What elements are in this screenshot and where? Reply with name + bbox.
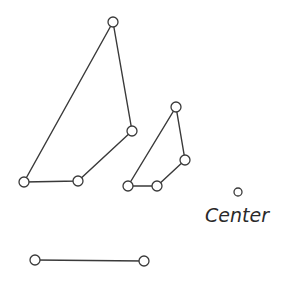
segment-edge xyxy=(35,260,144,261)
node xyxy=(152,181,162,191)
node xyxy=(171,102,181,112)
node xyxy=(139,256,149,266)
node xyxy=(180,155,190,165)
node xyxy=(123,181,133,191)
large-polygon-edges xyxy=(24,22,132,182)
center-marker: Center xyxy=(205,188,270,226)
node xyxy=(30,255,40,265)
diagram-canvas: Center xyxy=(0,0,298,290)
small-polygon-edges xyxy=(128,107,185,186)
node xyxy=(108,17,118,27)
center-point xyxy=(234,188,242,196)
large-polygon xyxy=(19,17,137,187)
node xyxy=(19,177,29,187)
node xyxy=(73,176,83,186)
small-polygon xyxy=(123,102,190,191)
center-label: Center xyxy=(205,204,270,226)
node xyxy=(127,126,137,136)
segment xyxy=(30,255,149,266)
